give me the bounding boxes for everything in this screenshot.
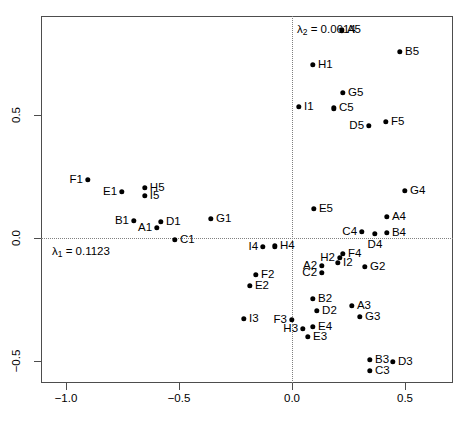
point-label: D5 (349, 120, 364, 132)
point-label: G4 (410, 185, 425, 197)
point-label: I1 (304, 101, 314, 113)
y-axis-tick-label: −0.5 (10, 350, 22, 373)
point-label: A1 (138, 222, 152, 234)
point-label: H2 (320, 252, 335, 264)
point-label: B1 (115, 215, 129, 227)
y-axis-tick-label: 0.5 (10, 107, 22, 123)
point-label: H4 (280, 240, 295, 252)
y-axis-tick (34, 115, 41, 116)
point-label: I3 (249, 313, 259, 325)
point-label: C1 (180, 234, 195, 246)
point-label: E1 (103, 186, 117, 198)
y-axis-tick (34, 238, 41, 239)
point-label: C2 (302, 267, 317, 279)
x-axis-tick-label: 0.5 (397, 392, 413, 404)
point-label: E3 (313, 331, 327, 343)
scatter-plot-figure: −1.0−0.50.00.5−0.50.00.5λ2 = 0.0614λ1 = … (0, 0, 467, 422)
point-label: E5 (319, 203, 333, 215)
point-label: B2 (318, 293, 332, 305)
x-axis-tick-label: −0.5 (168, 392, 191, 404)
point-label: C5 (339, 102, 354, 114)
point-label: I4 (248, 241, 258, 253)
point-label: I2 (343, 257, 353, 269)
point-label: D1 (166, 216, 181, 228)
point-label: C3 (375, 365, 390, 377)
point-label: H3 (283, 323, 298, 335)
point-label: F1 (70, 174, 83, 186)
lambda1-annotation: λ1 = 0.1123 (52, 246, 110, 258)
y-axis-tick-label: 0.0 (10, 230, 22, 246)
x-axis-tick-label: −1.0 (55, 392, 78, 404)
point-label: G1 (216, 213, 231, 225)
x-axis-tick (66, 383, 67, 390)
point-label: C4 (342, 226, 357, 238)
point-label: D3 (398, 356, 413, 368)
point-label: A4 (392, 211, 406, 223)
point-label: D4 (368, 239, 383, 251)
point-label: D2 (322, 305, 337, 317)
point-label: I5 (150, 190, 160, 202)
x-axis-tick (405, 383, 406, 390)
x-axis-tick-label: 0.0 (284, 392, 300, 404)
point-label: E2 (255, 280, 269, 292)
point-label: G5 (348, 87, 363, 99)
point-label: G2 (370, 261, 385, 273)
x-axis-tick (292, 383, 293, 390)
point-label: G3 (365, 311, 380, 323)
plot-frame (41, 16, 453, 383)
x-axis-tick (179, 383, 180, 390)
point-label: H1 (318, 59, 333, 71)
point-label: F5 (391, 116, 404, 128)
point-label: A5 (347, 24, 361, 36)
point-label: B4 (392, 227, 406, 239)
point-label: B5 (405, 46, 419, 58)
y-axis-tick (34, 361, 41, 362)
